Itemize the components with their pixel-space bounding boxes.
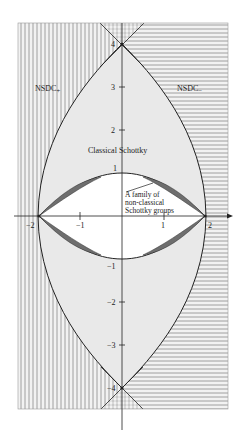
y-tick-1: 1	[113, 164, 117, 173]
y-tick-m1: −1	[107, 262, 116, 271]
y-tick-2: 2	[111, 126, 115, 135]
x-tick-m2: −2	[26, 221, 35, 230]
y-tick-m2: −2	[107, 298, 116, 307]
y-tick-4: 4	[111, 40, 115, 49]
y-tick-m3: −3	[107, 341, 116, 350]
x-tick-m1: −1	[76, 221, 85, 230]
y-tick-3: 3	[111, 83, 115, 92]
x-axis-arrow-icon	[227, 214, 233, 219]
point-y4	[120, 42, 123, 45]
x-tick-2: 2	[208, 221, 212, 230]
point-x2	[204, 215, 207, 218]
point-ym4	[120, 386, 123, 389]
point-xm2	[38, 215, 41, 218]
y-tick-m4: −4	[107, 384, 116, 393]
schottky-diagram: 4 3 2 1 −1 −2 −3 −4 −2 −1 1 2 NSDC+ NSDC…	[0, 0, 243, 432]
family-label-line3: Schottky groups	[125, 206, 174, 215]
x-tick-1: 1	[161, 221, 165, 230]
classical-schottky-label: Classical Schottky	[88, 146, 147, 155]
